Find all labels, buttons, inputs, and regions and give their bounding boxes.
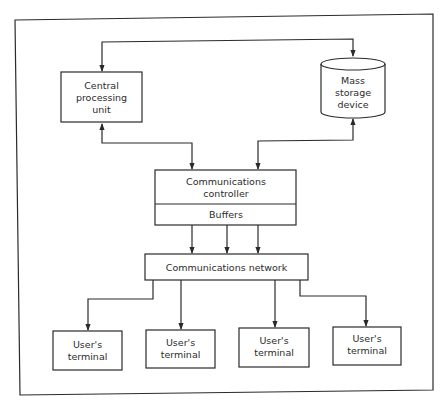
cpu-label-line-1: Central [84,80,119,91]
network-node: Communications network [145,254,308,280]
diagram-canvas: Central processing unit Mass storage dev… [0,0,447,405]
controller-label-line-1: Communications [186,176,266,187]
edge-network-terminal-1 [88,280,153,330]
terminal-4-label-line-2: terminal [347,345,387,356]
storage-label-line-1: Mass [341,75,365,86]
terminal-3-label-line-2: terminal [254,347,294,358]
network-label: Communications network [166,262,288,273]
controller-node: Communications controller Buffers [155,170,296,225]
terminal-2-label-line-1: User's [166,337,195,348]
terminal-2-label-line-2: terminal [161,349,201,360]
terminal-node-1: User's terminal [53,331,122,370]
storage-node: Mass storage device [321,58,385,118]
terminal-node-4: User's terminal [333,327,401,365]
storage-label-line-3: device [337,99,368,110]
terminal-1-label-line-2: terminal [68,351,108,362]
cpu-label-line-2: processing [76,92,127,103]
storage-label-line-2: storage [335,87,371,98]
cpu-node: Central processing unit [61,72,142,122]
cpu-label-line-3: unit [92,104,111,115]
buffers-label: Buffers [209,209,243,220]
edge-network-terminal-4 [300,280,366,326]
controller-label-line-2: controller [203,188,248,199]
edge-storage-controller [258,119,353,169]
terminal-4-label-line-1: User's [352,333,381,344]
terminal-1-label-line-1: User's [73,339,102,350]
terminal-node-3: User's terminal [239,328,309,367]
terminal-3-label-line-1: User's [259,335,288,346]
terminal-node-2: User's terminal [146,330,215,368]
edge-cpu-storage [102,39,353,71]
edge-cpu-controller [102,124,192,169]
